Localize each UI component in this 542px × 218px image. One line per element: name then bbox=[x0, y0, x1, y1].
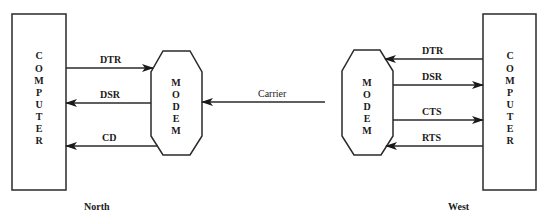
west-computer-letter: E bbox=[507, 123, 514, 134]
north-computer-letter: P bbox=[36, 87, 42, 98]
west-computer-letter: P bbox=[507, 87, 513, 98]
west-modem-letter: M bbox=[362, 125, 372, 136]
north-computer-letter: T bbox=[36, 111, 43, 122]
north-modem-letter: M bbox=[171, 125, 181, 136]
north-computer-letter: E bbox=[36, 123, 43, 134]
carrier-label: Carrier bbox=[258, 88, 287, 99]
north-modem-letter: E bbox=[173, 113, 180, 124]
north-signal-cd: CD bbox=[66, 132, 158, 146]
north-computer-letter: O bbox=[35, 63, 43, 74]
north-signal-dsr: DSR bbox=[66, 89, 151, 103]
west-caption: West bbox=[448, 201, 470, 212]
signal-label: DTR bbox=[100, 54, 122, 65]
north-computer-letter: U bbox=[35, 99, 42, 110]
carrier-link: Carrier bbox=[202, 88, 325, 102]
signal-label: DSR bbox=[100, 89, 121, 100]
signal-label: CTS bbox=[422, 106, 442, 117]
north-caption: North bbox=[84, 201, 110, 212]
signal-label: RTS bbox=[422, 132, 442, 143]
west-computer-letter: C bbox=[506, 50, 513, 61]
west-computer-letter: M bbox=[505, 75, 515, 86]
north-computer: C O M P U T E R bbox=[12, 14, 66, 190]
west-computer: C O M P U T E R bbox=[483, 14, 536, 190]
west-computer-letter: O bbox=[506, 63, 514, 74]
west-computer-letter: U bbox=[506, 99, 513, 110]
north-modem: M O D E M bbox=[151, 51, 202, 155]
west-modem-letter: M bbox=[362, 77, 372, 88]
north-signal-dtr: DTR bbox=[66, 54, 153, 68]
west-signal-cts: CTS bbox=[393, 106, 483, 120]
west-signal-rts: RTS bbox=[386, 132, 483, 146]
north-modem-letter: M bbox=[171, 77, 181, 88]
signal-label: DTR bbox=[422, 45, 444, 56]
west-computer-letter: T bbox=[507, 111, 514, 122]
west-modem-letter: O bbox=[363, 89, 371, 100]
west-signal-dsr: DSR bbox=[393, 71, 483, 85]
signal-label: DSR bbox=[422, 71, 443, 82]
north-computer-letter: R bbox=[35, 135, 43, 146]
north-computer-letter: C bbox=[35, 50, 42, 61]
north-modem-letter: D bbox=[172, 101, 179, 112]
north-computer-letter: M bbox=[34, 75, 44, 86]
west-signal-dtr: DTR bbox=[385, 45, 483, 59]
modem-signal-diagram: C O M P U T E R M O D E M DTR DSR CD Car… bbox=[0, 0, 542, 218]
signal-label: CD bbox=[102, 132, 116, 143]
north-modem-letter: O bbox=[172, 89, 180, 100]
west-modem: M O D E M bbox=[342, 50, 393, 155]
west-modem-letter: D bbox=[363, 101, 370, 112]
west-computer-letter: R bbox=[506, 135, 514, 146]
west-modem-letter: E bbox=[364, 113, 371, 124]
